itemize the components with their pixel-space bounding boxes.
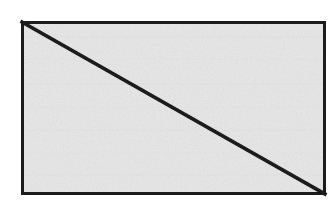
figure-svg [0,0,336,211]
figure-canvas [0,0,336,211]
rectangle-with-diagonal-figure [0,0,336,211]
